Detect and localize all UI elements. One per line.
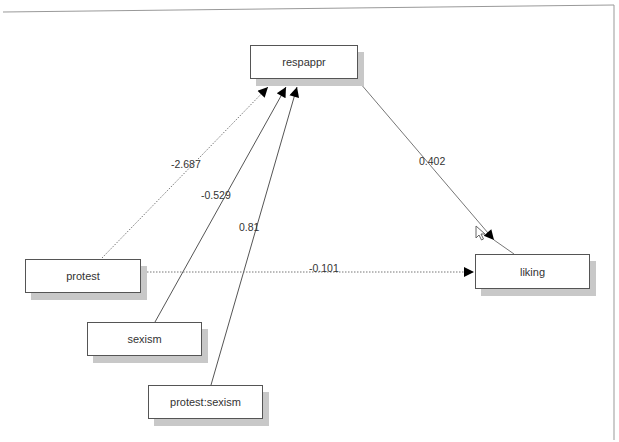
edge-label-protest-liking: -0.101 [309,262,339,274]
node-label-sexism: sexism [127,333,161,345]
node-protest-sexism[interactable]: protest:sexism [148,385,263,419]
edge-label-respappr-liking: 0.402 [419,155,445,167]
node-label-respappr: respappr [282,56,325,68]
node-label-protest: protest [66,270,100,282]
mouse-pointer-icon [475,225,487,241]
node-label-liking: liking [520,266,545,278]
edge-label-protest-sexism-respappr: 0.81 [239,221,259,233]
edge-sexism-respappr[interactable] [155,87,286,322]
edge-label-protest-respappr: -2.687 [171,158,201,170]
edge-respappr-liking-tail [494,240,514,254]
node-respappr[interactable]: respappr [250,45,358,79]
frame-top-border [3,5,614,12]
node-label-protest-sexism: protest:sexism [170,396,241,408]
edge-protest-sexism-respappr[interactable] [211,87,297,385]
node-protest[interactable]: protest [25,259,141,293]
node-sexism[interactable]: sexism [87,322,202,356]
node-liking[interactable]: liking [475,254,590,289]
edge-label-sexism-respappr: -0.529 [201,189,231,201]
